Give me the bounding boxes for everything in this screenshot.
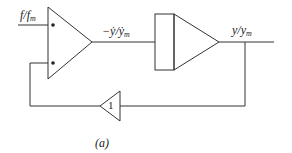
integrator-1-triangle (48, 7, 92, 79)
feedback-gain-label: 1 (108, 100, 114, 111)
block-diagram (0, 0, 292, 153)
integrator-2-box (155, 14, 174, 70)
feedback-line-right (120, 42, 245, 106)
input-label: f/fm (20, 9, 36, 23)
integrator-output-label: −ẏ/ẏm (102, 25, 130, 39)
output-label: y/ym (232, 24, 252, 38)
figure-caption: (a) (95, 137, 109, 149)
feedback-line-left (30, 63, 100, 106)
input-dot-bottom (51, 61, 55, 65)
integrator-2-triangle (174, 14, 219, 70)
input-dot-top (51, 23, 55, 27)
